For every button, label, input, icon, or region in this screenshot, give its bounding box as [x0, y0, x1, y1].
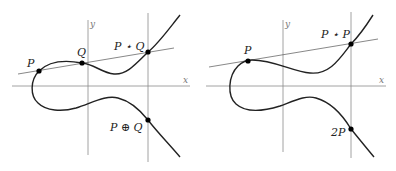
elliptic-curve-diagrams: y x P Q P ⋆ Q P ⊕ Q y x P P ⋆ P 2P — [0, 0, 396, 171]
point-P-star-P — [348, 41, 353, 46]
label-P-star-P: P ⋆ P — [320, 28, 350, 41]
label-P-star-Q: P ⋆ Q — [113, 40, 144, 53]
point-P-plus-Q — [145, 117, 150, 122]
y-axis-label: y — [284, 19, 291, 29]
point-P — [245, 58, 250, 63]
label-P: P — [26, 57, 35, 70]
y-axis-label: y — [89, 19, 96, 29]
label-Q: Q — [77, 46, 86, 59]
label-2P: 2P — [330, 126, 346, 139]
label-P-plus-Q: P ⊕ Q — [109, 121, 143, 134]
label-P: P — [243, 44, 252, 57]
point-P-star-Q — [145, 49, 150, 54]
x-axis-label: x — [379, 75, 384, 85]
point-P — [36, 68, 41, 73]
addition-panel: y x P Q P ⋆ Q P ⊕ Q — [12, 13, 190, 162]
x-axis-label: x — [183, 75, 188, 85]
point-2P — [348, 126, 353, 131]
doubling-panel: y x P P ⋆ P 2P — [206, 12, 386, 158]
point-Q — [79, 60, 84, 65]
